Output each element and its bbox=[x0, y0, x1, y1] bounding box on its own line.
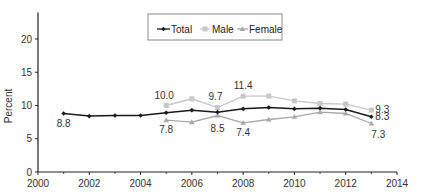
legend: Total Male Female bbox=[148, 14, 283, 40]
diamond-marker-icon bbox=[241, 107, 246, 112]
legend-label-male: Male bbox=[212, 24, 234, 35]
x-tick-label: 2008 bbox=[232, 178, 255, 189]
square-marker-icon bbox=[266, 94, 271, 99]
square-marker-icon bbox=[241, 94, 246, 99]
x-tick-label: 2002 bbox=[78, 178, 101, 189]
diamond-marker-icon bbox=[369, 115, 374, 120]
diamond-marker-icon bbox=[190, 108, 195, 113]
y-axis-label: Percent bbox=[3, 89, 14, 124]
x-tick-label: 2014 bbox=[386, 178, 409, 189]
diamond-marker-icon bbox=[318, 106, 323, 111]
y-tick-label: 15 bbox=[21, 67, 33, 78]
diamond-marker-icon bbox=[292, 107, 297, 112]
data-label: 8.3 bbox=[375, 111, 389, 122]
square-marker-icon bbox=[343, 102, 348, 107]
square-marker-icon bbox=[189, 96, 194, 101]
y-tick-label: 5 bbox=[26, 133, 32, 144]
diamond-marker-icon bbox=[215, 110, 220, 115]
diamond-marker-icon bbox=[343, 107, 348, 112]
data-label: 9.7 bbox=[209, 91, 223, 102]
x-tick-label: 2012 bbox=[335, 178, 358, 189]
diamond-marker-icon bbox=[113, 113, 118, 118]
legend-label-female: Female bbox=[249, 24, 283, 35]
square-marker-icon bbox=[369, 108, 374, 113]
square-marker-icon bbox=[203, 27, 208, 32]
data-label: 8.5 bbox=[211, 123, 225, 134]
data-label: 7.8 bbox=[159, 124, 173, 135]
series-female bbox=[163, 109, 374, 125]
diamond-marker-icon bbox=[164, 111, 169, 116]
data-label: 11.4 bbox=[234, 80, 253, 91]
square-marker-icon bbox=[292, 98, 297, 103]
x-tick-label: 2000 bbox=[27, 178, 50, 189]
data-label: 7.4 bbox=[236, 127, 250, 138]
x-tick-label: 2006 bbox=[181, 178, 204, 189]
x-tick-label: 2010 bbox=[283, 178, 306, 189]
data-labels: 8.810.07.89.78.511.47.49.38.37.3 bbox=[57, 80, 390, 140]
data-label: 10.0 bbox=[154, 90, 174, 101]
data-label: 7.3 bbox=[371, 129, 385, 140]
x-tick-label: 2004 bbox=[129, 178, 152, 189]
chart-canvas: 0510152020002002200420062008201020122014… bbox=[0, 0, 427, 196]
square-marker-icon bbox=[164, 103, 169, 108]
diamond-marker-icon bbox=[266, 105, 271, 110]
y-tick-label: 0 bbox=[26, 167, 32, 178]
diamond-marker-icon bbox=[138, 113, 143, 118]
diamond-marker-icon bbox=[61, 111, 66, 116]
y-tick-label: 20 bbox=[21, 34, 33, 45]
diamond-marker-icon bbox=[87, 114, 92, 119]
legend-label-total: Total bbox=[171, 24, 192, 35]
line-chart: 0510152020002002200420062008201020122014… bbox=[0, 0, 427, 196]
y-tick-label: 10 bbox=[21, 100, 33, 111]
data-label: 8.8 bbox=[57, 118, 71, 129]
square-marker-icon bbox=[318, 101, 323, 106]
square-marker-icon bbox=[215, 105, 220, 110]
